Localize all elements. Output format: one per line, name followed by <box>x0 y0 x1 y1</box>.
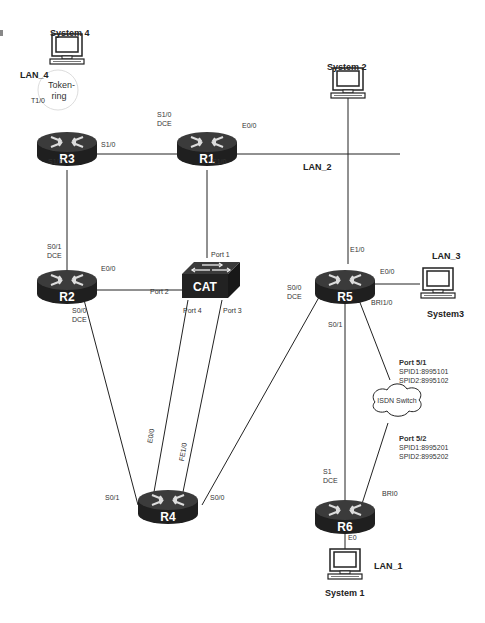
router-r5: R5 <box>315 270 375 304</box>
system4-pc-icon <box>50 34 84 64</box>
r1-s10-dce: DCE <box>157 119 172 128</box>
isdn-port51-spid1: SPID1:8995101 <box>399 367 448 376</box>
r2-s01: S0/1 <box>47 242 62 251</box>
system3-pc-icon <box>421 268 455 298</box>
r5-s00: S0/0 <box>287 283 302 292</box>
lan3-label: LAN_3 <box>432 251 461 261</box>
lan4-label: LAN_4 <box>20 70 49 80</box>
svg-text:ISDN Switch: ISDN Switch <box>377 397 416 404</box>
system4-label: System 4 <box>50 28 90 38</box>
isdn-port52-spid2: SPID2:8995202 <box>399 452 448 461</box>
r3-s11-label: S1/1 <box>48 158 62 166</box>
network-diagram: R3 R1 R2 R5 R4 R6 CAT ISDN Switch Token-… <box>0 0 485 623</box>
r2-e00-label: E0/0 <box>101 265 115 273</box>
isdn-cloud-icon: ISDN Switch <box>373 384 421 416</box>
svg-text:R4: R4 <box>160 510 176 524</box>
isdn-port51-block: Port 5/1 SPID1:8995101 SPID2:8995102 <box>399 358 448 385</box>
svg-text:R5: R5 <box>337 290 353 304</box>
isdn-port51-spid2: SPID2:8995102 <box>399 376 448 385</box>
cat-switch-icon: CAT <box>182 262 240 298</box>
r3-t10-label: T1/0 <box>31 97 45 105</box>
token-ring-label: Token- ring <box>48 80 70 102</box>
r1-e10-label: E1/0 <box>212 158 226 166</box>
links <box>67 95 420 555</box>
cat-port4-label: Port 4 <box>183 307 202 315</box>
edge-mark <box>0 30 3 36</box>
system1-label: System 1 <box>325 588 365 598</box>
r6-bri0-label: BRI0 <box>382 490 398 498</box>
isdn-port52-block: Port 5/2 SPID1:8995201 SPID2:8995202 <box>399 434 448 461</box>
system3-label: System3 <box>427 309 464 319</box>
router-r2: R2 <box>37 270 97 304</box>
router-r6: R6 <box>315 500 375 534</box>
r5-s00-dce: DCE <box>287 292 302 301</box>
cat-port3-label: Port 3 <box>223 307 242 315</box>
r5-e00-label: E0/0 <box>380 268 394 276</box>
r1-s10-label: S1/0DCE <box>157 110 172 128</box>
lan1-label: LAN_1 <box>374 561 403 571</box>
r2-s00-label: S0/0DCE <box>72 306 87 324</box>
r1-s10: S1/0 <box>157 110 172 119</box>
isdn-port52-name: Port 5/2 <box>399 434 448 443</box>
r5-s01-label: S0/1 <box>328 321 342 329</box>
r2-s00-dce: DCE <box>72 315 87 324</box>
r5-e10-label: E1/0 <box>350 246 364 254</box>
r3-s10-label: S1/0 <box>101 141 115 149</box>
r2-s01-label: S0/1DCE <box>47 242 62 260</box>
r6-e0-label: E0 <box>348 534 357 542</box>
system2-label: System 2 <box>327 62 367 72</box>
router-r3: R3 <box>37 132 97 166</box>
r5-bri10-label: BRI1/0 <box>371 299 392 307</box>
svg-text:R2: R2 <box>59 290 75 304</box>
router-r4: R4 <box>138 490 198 524</box>
r1-e00-label: E0/0 <box>242 122 256 130</box>
svg-text:CAT: CAT <box>193 280 217 294</box>
r5-s00-label: S0/0DCE <box>287 283 302 301</box>
r6-s1: S1 <box>323 467 338 476</box>
svg-text:R6: R6 <box>337 520 353 534</box>
system1-pc-icon <box>328 549 362 579</box>
r6-s1-dce: DCE <box>323 476 338 485</box>
token-ring-line2: ring <box>48 91 70 102</box>
system2-pc-icon <box>331 68 365 98</box>
r4-s00-label: S0/0 <box>210 494 224 502</box>
router-r1: R1 <box>177 132 237 166</box>
isdn-port51-name: Port 5/1 <box>399 358 448 367</box>
cat-port1-label: Port 1 <box>211 251 230 259</box>
token-ring-line1: Token- <box>48 80 70 91</box>
r2-s01-dce: DCE <box>47 251 62 260</box>
r6-s1-label: S1DCE <box>323 467 338 485</box>
r4-s01-label: S0/1 <box>105 494 119 502</box>
r2-s00: S0/0 <box>72 306 87 315</box>
isdn-port52-spid1: SPID1:8995201 <box>399 443 448 452</box>
lan2-label: LAN_2 <box>303 162 332 172</box>
cat-port2-label: Port 2 <box>150 288 169 296</box>
